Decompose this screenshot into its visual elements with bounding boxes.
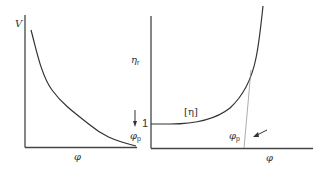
right-phip-label: φp (229, 131, 240, 144)
right-phip-sub: p (236, 135, 240, 142)
left-x-label: φ (74, 152, 81, 162)
right-y-tick-one: 1 (142, 118, 148, 128)
left-phip-sub: p (137, 135, 141, 142)
intrinsic-viscosity-label: [η] (184, 107, 198, 117)
left-phip-main: φ (130, 130, 137, 141)
right-ylabel-sub: r (137, 59, 139, 66)
figure-canvas (0, 0, 328, 170)
left-phip-label: φp (130, 131, 141, 144)
left-y-label: V (15, 19, 22, 29)
down-arrow-icon (133, 121, 137, 127)
right-phip-main: φ (229, 130, 236, 141)
left-arrow-icon (253, 132, 259, 137)
right-curve (151, 6, 263, 124)
right-y-label: ηr (131, 55, 139, 68)
tangent-line (244, 70, 251, 148)
right-x-label: φ (266, 153, 273, 163)
right-arrow-shaft (257, 130, 267, 135)
left-curve (31, 30, 136, 146)
